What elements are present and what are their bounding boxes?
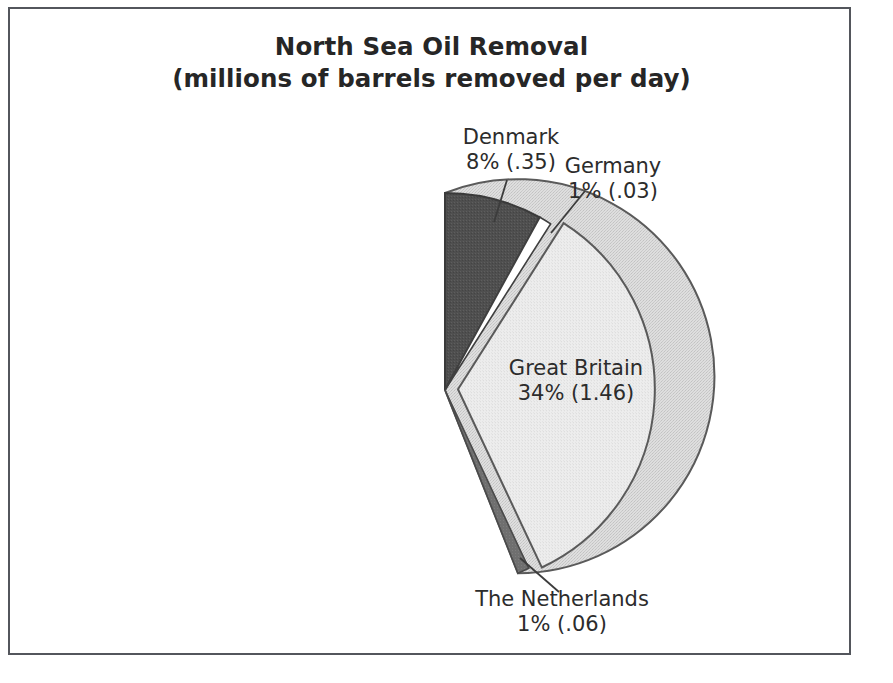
slice-label-norway-value: 56% (2.49) [235,406,425,431]
slice-label-germany-name: Germany [523,154,703,179]
slice-label-germany: Germany 1% (.03) [523,154,703,204]
slice-label-the-netherlands-name: The Netherlands [462,587,662,612]
slice-label-great-britain-value: 34% (1.46) [476,381,676,406]
pie-chart-svg [10,9,853,657]
slice-label-the-netherlands-value: 1% (.06) [462,612,662,637]
pie-chart-figure: North Sea Oil Removal (millions of barre… [0,0,893,683]
pie-chart-plot-area: Denmark 8% (.35) Germany 1% (.03) Great … [10,9,853,657]
slice-label-denmark-name: Denmark [421,125,601,150]
slice-label-germany-value: 1% (.03) [523,179,703,204]
chart-frame-border: North Sea Oil Removal (millions of barre… [8,7,851,655]
slice-label-great-britain-name: Great Britain [476,356,676,381]
slice-label-norway: Norway 56% (2.49) [235,381,425,431]
slice-label-great-britain: Great Britain 34% (1.46) [476,356,676,406]
slice-label-the-netherlands: The Netherlands 1% (.06) [462,587,662,637]
slice-label-norway-name: Norway [235,381,425,406]
